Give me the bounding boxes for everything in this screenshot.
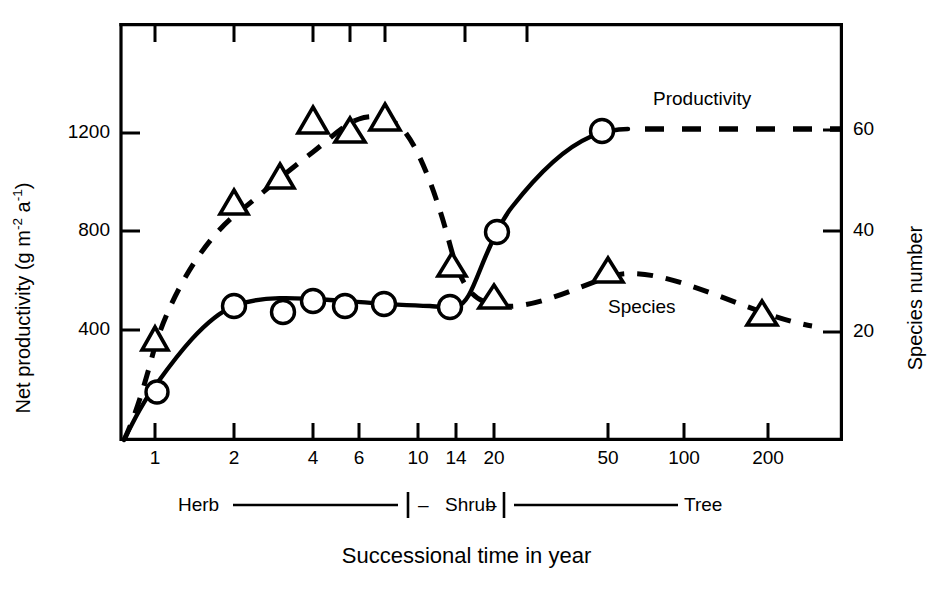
stage-dash-right: – — [486, 494, 497, 516]
productivity-point-2 — [223, 295, 246, 318]
x-ticklabel-50: 50 — [583, 447, 633, 469]
x-ticklabel-4: 4 — [293, 447, 333, 469]
figure-container: Net productivity (g m-2 a-1) Species num… — [0, 0, 933, 596]
stage-label-herb: Herb — [178, 494, 219, 516]
species-point-6 — [370, 104, 400, 130]
productivity-point-14 — [439, 296, 462, 319]
x-ticklabel-200: 200 — [738, 447, 798, 469]
y-right-ticklabel-60: 60 — [853, 118, 893, 140]
y-left-ticklabel-800: 800 — [36, 219, 110, 241]
y-right-tick-marks — [823, 130, 841, 332]
y-right-ticklabel-40: 40 — [853, 219, 893, 241]
x-axis-title: Successional time in year — [0, 543, 933, 569]
productivity-point-1 — [146, 381, 168, 403]
x-tick-marks — [155, 423, 768, 439]
series-species-line — [124, 117, 812, 440]
species-point-20 — [479, 285, 509, 308]
y-left-exponent-1: -2 — [10, 218, 25, 230]
y-left-ticklabel-1200: 1200 — [36, 121, 110, 143]
species-point-190 — [747, 301, 777, 325]
y-left-tick-marks — [121, 133, 140, 330]
x-ticklabel-20: 20 — [469, 447, 519, 469]
species-series-label: Species — [608, 296, 676, 318]
productivity-point-3 — [272, 301, 295, 324]
series-productivity-markers — [146, 120, 614, 404]
productivity-point-20 — [486, 221, 509, 244]
productivity-point-46 — [591, 120, 614, 143]
species-point-4 — [298, 107, 328, 133]
plot-frame — [119, 23, 843, 441]
productivity-series-label: Productivity — [653, 88, 751, 110]
species-point-50 — [593, 258, 623, 282]
x-ticklabel-1: 1 — [135, 447, 175, 469]
x-ticklabel-2: 2 — [214, 447, 254, 469]
y-left-exponent-2: -1 — [10, 189, 25, 201]
species-point-1 — [142, 327, 168, 350]
stage-label-tree: Tree — [684, 494, 722, 516]
productivity-point-4-8 — [334, 295, 357, 318]
x-ticklabel-100: 100 — [654, 447, 714, 469]
x-ticklabel-6: 6 — [339, 447, 379, 469]
productivity-point-3-8 — [302, 290, 325, 313]
y-right-axis-title: Species number — [904, 226, 927, 371]
stage-dash-left: – — [418, 494, 429, 516]
series-productivity-line — [124, 129, 628, 440]
y-left-axis-title: Net productivity (g m-2 a-1) — [10, 183, 35, 414]
top-tick-marks — [155, 25, 527, 42]
y-left-ticklabel-400: 400 — [36, 318, 110, 340]
productivity-point-6 — [373, 293, 396, 316]
species-point-2 — [220, 190, 248, 214]
species-point-14 — [438, 253, 466, 276]
y-right-ticklabel-20: 20 — [853, 320, 893, 342]
